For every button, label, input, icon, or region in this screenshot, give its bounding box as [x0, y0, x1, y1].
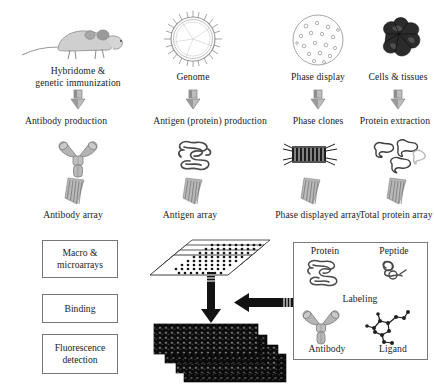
- legend-label-labeling: Labeling: [330, 293, 390, 305]
- microarray-slide-stack-icon: [146, 234, 276, 276]
- product-label-protein-extraction: Protein extraction: [342, 115, 434, 127]
- process-box-binding[interactable]: Binding: [42, 294, 118, 323]
- source-label-genome: Genome: [143, 71, 243, 83]
- down-arrow-3d-icon: [310, 90, 326, 110]
- protein-cluster-icon: [370, 136, 428, 180]
- source-label-line1: Hybridome &: [51, 65, 106, 76]
- down-arrow-3d-icon: [70, 90, 86, 110]
- array-slide-icon: [300, 178, 326, 206]
- source-label-cells-tissues: Cells & tissues: [348, 71, 434, 83]
- fluorescence-scan-stack-icon: [152, 316, 290, 384]
- array-slide-icon: [64, 178, 90, 206]
- protein-coil-icon: [172, 138, 216, 178]
- phage-rod-icon: [280, 142, 340, 170]
- source-label-hybridome: Hybridome & genetic immunization: [8, 65, 148, 88]
- mouse-icon: [18, 14, 138, 64]
- genome-circle-icon: [152, 8, 234, 70]
- tissue-icon: [372, 12, 428, 68]
- peptide-icon: [378, 258, 410, 286]
- array-label-total-protein: Total protein array: [340, 209, 434, 221]
- process-box-macro-microarrays[interactable]: Macro & microarrays: [42, 240, 118, 278]
- process-box-line1: Binding: [65, 303, 96, 315]
- array-label-antigen: Antigen array: [140, 209, 240, 221]
- down-arrow-3d-icon: [185, 90, 201, 110]
- antibody-y-icon: [300, 305, 342, 347]
- legend-label-peptide: Peptide: [366, 245, 422, 257]
- petri-dish-icon: [288, 12, 348, 68]
- thick-left-arrow-icon: [232, 292, 298, 314]
- process-box-line2: detection: [62, 354, 97, 365]
- legend-label-antibody: Antibody: [296, 343, 358, 355]
- down-arrow-3d-icon: [390, 90, 406, 110]
- ligand-molecule-icon: [360, 304, 414, 346]
- antibody-y-icon: [56, 136, 100, 180]
- diagram-canvas: Hybridome & genetic immunization Genome …: [0, 0, 434, 388]
- source-label-line2: genetic immunization: [35, 77, 120, 88]
- array-label-antibody: Antibody array: [20, 209, 126, 221]
- array-slide-icon: [182, 178, 208, 206]
- process-box-fluorescence-detection[interactable]: Fluorescence detection: [42, 334, 118, 374]
- product-label-antigen-production: Antigen (protein) production: [125, 115, 295, 127]
- process-box-line1: Macro &: [63, 247, 98, 258]
- protein-coil-icon: [302, 257, 346, 291]
- array-slide-icon: [386, 178, 412, 206]
- process-box-line2: microarrays: [57, 259, 103, 270]
- legend-label-ligand: Ligand: [366, 343, 420, 355]
- legend-label-protein: Protein: [296, 245, 354, 257]
- process-box-line1: Fluorescence: [55, 342, 106, 353]
- product-label-antibody-production: Antibody production: [2, 115, 130, 127]
